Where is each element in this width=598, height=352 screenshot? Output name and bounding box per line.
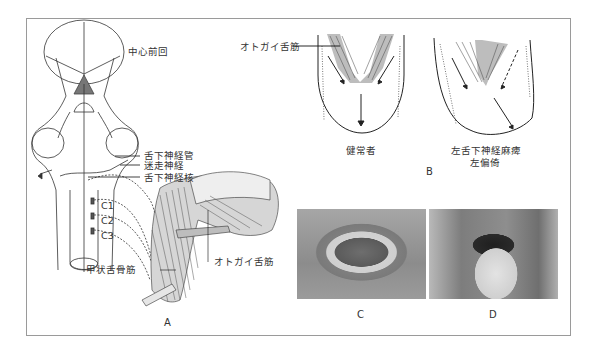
tongue-muscle-illustration	[142, 172, 278, 306]
photo-tongue-atrophy	[297, 209, 426, 299]
label-left-deviation: 左偏倚	[470, 157, 500, 168]
label-normal: 健常者	[346, 145, 376, 156]
label-c1: C1	[101, 200, 114, 211]
label-vagus-nerve: 迷走神経	[144, 160, 184, 171]
label-genioglossus-muscle-b: オトガイ舌筋	[240, 41, 300, 52]
label-left-hypoglossal-palsy: 左舌下神経麻痺	[451, 145, 521, 156]
label-genioglossus-muscle-a: オトガイ舌筋	[214, 256, 274, 267]
brain-diagram	[32, 20, 160, 280]
panel-letter-b: B	[426, 166, 433, 177]
figure-artwork	[0, 0, 598, 352]
tongue-palsy-diagram	[434, 38, 534, 134]
label-thyrohyoid-muscle: 甲状舌骨筋	[86, 264, 136, 275]
label-precentral-gyrus: 中心前回	[128, 46, 168, 57]
label-hypoglossal-nucleus: 舌下神経核	[144, 172, 194, 183]
panel-letter-d: D	[489, 309, 497, 320]
label-c3: C3	[101, 230, 114, 241]
tongue-normal-diagram	[318, 34, 404, 133]
panel-letter-c: C	[357, 309, 364, 320]
label-c2: C2	[101, 215, 114, 226]
photo-tongue-deviation	[429, 209, 558, 299]
panel-letter-a: A	[164, 317, 171, 328]
